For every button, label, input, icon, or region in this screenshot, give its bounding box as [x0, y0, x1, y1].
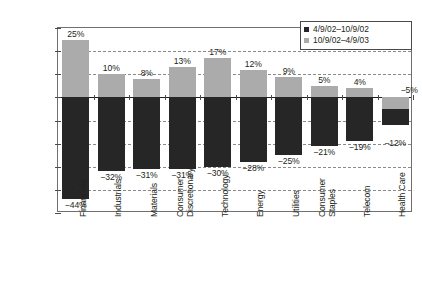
bar-segment-period-1 — [346, 97, 373, 141]
bar-slot — [346, 28, 373, 211]
value-label-period-2: 5% — [318, 75, 330, 85]
x-axis-category-label: Materials — [150, 183, 160, 217]
bar-segment-period-1 — [98, 97, 125, 171]
x-axis-tick-mark — [342, 95, 343, 100]
x-axis-category-label: Energy — [256, 190, 266, 217]
y-axis-tick-mark — [55, 97, 61, 98]
y-axis-tick-mark — [55, 144, 61, 145]
y-axis-tick-mark — [55, 190, 61, 191]
legend-item-1: 10/9/02–4/9/03 — [304, 35, 408, 46]
value-label-period-2: 8% — [141, 68, 153, 78]
bar-segment-period-2 — [275, 77, 302, 98]
value-label-period-1: −19% — [349, 142, 371, 152]
bar-segment-period-2 — [240, 70, 267, 98]
x-axis-category-label: Industrials — [114, 179, 124, 217]
bar-segment-period-2 — [169, 67, 196, 97]
bar-segment-period-2 — [133, 79, 160, 98]
x-axis-category-label: Telecom — [363, 186, 373, 217]
x-axis-tick-mark — [129, 95, 130, 100]
bar-chart: 30.0%20.0%10.0%0.0%−10.0%−20.0%−30.0%−40… — [0, 0, 422, 285]
bar-segment-period-2 — [382, 97, 409, 109]
x-axis-tick-mark — [94, 95, 95, 100]
x-axis-category-label: Technology — [221, 175, 231, 217]
bar-segment-period-2 — [346, 88, 373, 97]
value-label-period-2: 12% — [245, 59, 262, 69]
legend-item-0: 4/9/02–10/9/02 — [304, 24, 408, 35]
chart-legend: 4/9/02–10/9/02 10/9/02–4/9/03 — [300, 21, 412, 50]
y-axis-tick-mark — [55, 51, 61, 52]
plot-area: 25%−44%10%−32%8%−31%13%−31%17%−30%12%−28… — [57, 27, 412, 212]
value-label-period-2: 13% — [174, 56, 191, 66]
x-axis-tick-mark — [413, 95, 414, 100]
bar-segment-period-2 — [311, 86, 338, 98]
value-label-period-2: 10% — [103, 63, 120, 73]
x-axis-tick-mark — [165, 95, 166, 100]
value-label-period-1: −21% — [313, 147, 335, 157]
x-axis-category-label: Financials — [79, 179, 89, 217]
legend-label-0: 4/9/02–10/9/02 — [313, 24, 369, 35]
value-label-period-2: 4% — [354, 77, 366, 87]
value-label-period-1: −28% — [242, 163, 264, 173]
x-axis-tick-mark — [307, 95, 308, 100]
bar-slot — [275, 28, 302, 211]
legend-swatch-dark-icon — [304, 27, 309, 32]
x-axis-tick-mark — [200, 95, 201, 100]
y-axis-tick-mark — [55, 28, 61, 29]
bar-segment-period-1 — [311, 97, 338, 146]
y-axis-tick-mark — [55, 121, 61, 122]
bar-segment-period-1 — [133, 97, 160, 169]
bar-segment-period-1 — [240, 97, 267, 162]
legend-swatch-light-icon — [304, 38, 309, 43]
x-axis-category-label: ConsumerStaples — [318, 178, 337, 217]
bar-segment-period-1 — [169, 97, 196, 169]
value-label-period-1: −31% — [136, 170, 158, 180]
value-label-period-2: 25% — [67, 29, 84, 39]
y-axis-tick-mark — [55, 213, 61, 214]
bar-segment-period-2 — [204, 58, 231, 97]
bar-segment-period-2 — [62, 40, 89, 98]
x-axis-category-label: ConsumerDiscretionary — [176, 168, 195, 217]
y-axis-tick-mark — [55, 74, 61, 75]
value-label-period-2: 9% — [283, 66, 295, 76]
x-axis-tick-mark — [236, 95, 237, 100]
x-axis-tick-mark — [378, 95, 379, 100]
x-axis-category-label: Health Care — [398, 172, 408, 217]
bar-slot — [240, 28, 267, 211]
x-axis-tick-mark — [271, 95, 272, 100]
bar-segment-period-2 — [98, 74, 125, 97]
value-label-period-1: −25% — [278, 156, 300, 166]
y-axis-tick-mark — [55, 167, 61, 168]
legend-label-1: 10/9/02–4/9/03 — [313, 35, 369, 46]
bar-segment-period-1 — [204, 97, 231, 166]
value-label-period-2: −5% — [401, 85, 418, 95]
x-axis-category-label: Utilities — [292, 190, 302, 217]
value-label-period-1: −12% — [384, 138, 406, 148]
value-label-period-2: 17% — [209, 47, 226, 57]
bar-segment-period-1 — [275, 97, 302, 155]
